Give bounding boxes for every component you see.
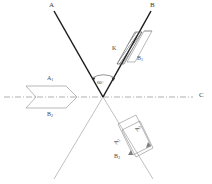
light-construction-rays	[54, 97, 153, 179]
endpoint-label-a: A	[49, 2, 54, 9]
block-label-a1: A1	[47, 75, 53, 81]
block-label-k: K	[112, 45, 116, 51]
angle-value-label: 60°	[97, 81, 103, 86]
diagram-canvas	[0, 0, 212, 184]
block-label-b2-left: B2	[47, 111, 53, 117]
vector-force-diagram: A B C 60° K B1 A1 B2 A3 A2 B3	[0, 0, 212, 184]
block-label-b3: B3	[114, 153, 120, 159]
endpoint-label-b: B	[150, 2, 155, 9]
endpoint-label-c: C	[199, 92, 204, 99]
angle-arc	[92, 75, 115, 81]
block-label-b1: B1	[137, 55, 143, 61]
